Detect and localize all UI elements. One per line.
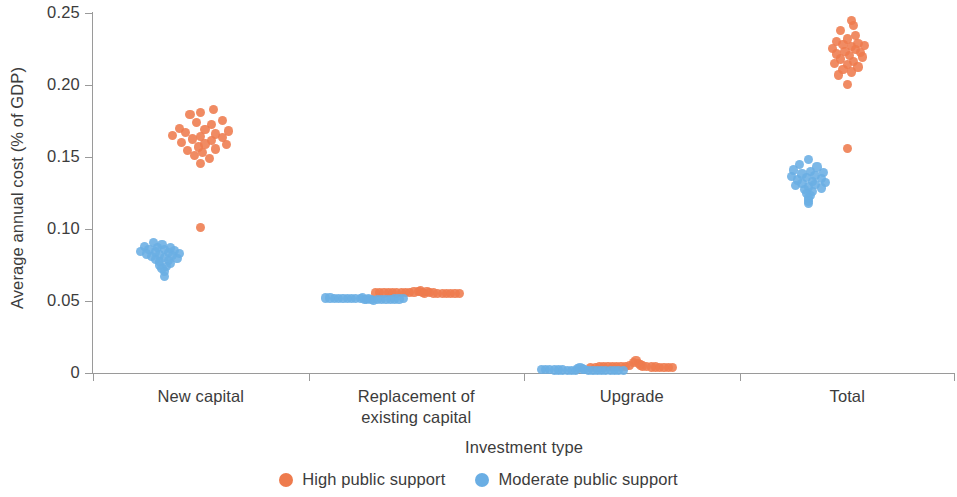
data-point — [196, 159, 205, 168]
data-point — [222, 140, 231, 149]
legend-swatch-circle-icon — [279, 473, 293, 487]
y-tick — [85, 301, 92, 302]
data-point — [858, 52, 867, 61]
data-point — [849, 21, 858, 30]
data-point — [847, 67, 856, 76]
data-point — [619, 366, 628, 375]
data-point — [209, 105, 218, 114]
y-tick-label: 0.25 — [6, 4, 80, 21]
y-tick-label-wrap: 0.10 — [0, 220, 80, 238]
y-tick-label-wrap: 0 — [0, 364, 80, 382]
data-point — [817, 183, 826, 192]
data-point — [804, 155, 813, 164]
y-tick — [85, 13, 92, 14]
x-tick-label-line: Replacement of — [309, 386, 525, 407]
y-tick-label-wrap: 0.05 — [0, 292, 80, 310]
y-tick-label-wrap: 0.20 — [0, 76, 80, 94]
x-tick-label: Total — [740, 386, 956, 407]
legend-label: Moderate public support — [498, 470, 677, 489]
y-tick-label: 0.05 — [6, 292, 80, 309]
y-axis-title: Average annual cost (% of GDP) — [4, 0, 30, 378]
y-tick-label: 0 — [6, 364, 80, 381]
y-tick — [85, 85, 92, 86]
scatter-chart: Average annual cost (% of GDP) 00.050.10… — [0, 0, 957, 497]
data-point — [843, 144, 852, 153]
x-tick — [740, 374, 741, 381]
y-tick-label: 0.15 — [6, 148, 80, 165]
data-point — [168, 131, 177, 140]
data-point — [804, 199, 813, 208]
y-tick-label: 0.10 — [6, 220, 80, 237]
y-tick-label-wrap: 0.15 — [0, 148, 80, 166]
data-point — [196, 223, 205, 232]
x-tick-label-line: Total — [740, 386, 956, 407]
plot-area — [93, 8, 955, 373]
x-axis-title: Investment type — [93, 438, 955, 457]
legend-item[interactable]: Moderate public support — [475, 470, 677, 489]
y-tick — [85, 229, 92, 230]
legend-item[interactable]: High public support — [279, 470, 445, 489]
data-point — [192, 118, 201, 127]
x-tick — [954, 374, 955, 381]
x-tick — [93, 374, 94, 381]
data-point — [843, 80, 852, 89]
data-point — [668, 363, 677, 372]
x-tick-label: New capital — [93, 386, 309, 407]
chart-legend: High public supportModerate public suppo… — [0, 470, 957, 489]
data-point — [211, 144, 220, 153]
data-point — [455, 289, 464, 298]
data-point — [218, 116, 227, 125]
x-tick — [309, 374, 310, 381]
data-point — [834, 70, 843, 79]
data-point — [205, 154, 214, 163]
x-tick-label: Replacement ofexisting capital — [309, 386, 525, 428]
y-tick — [85, 373, 92, 374]
legend-label: High public support — [302, 470, 445, 489]
y-tick-label: 0.20 — [6, 76, 80, 93]
data-point — [836, 26, 845, 35]
x-tick-label-line: Upgrade — [524, 386, 740, 407]
data-point — [196, 108, 205, 117]
y-tick — [85, 157, 92, 158]
x-tick-label: Upgrade — [524, 386, 740, 407]
data-point — [160, 272, 169, 281]
x-tick-label-line: New capital — [93, 386, 309, 407]
y-tick-label-wrap: 0.25 — [0, 4, 80, 22]
legend-swatch-circle-icon — [475, 473, 489, 487]
data-point — [399, 294, 408, 303]
data-point — [791, 181, 800, 190]
x-tick — [524, 374, 525, 381]
x-tick-label-line: existing capital — [309, 407, 525, 428]
